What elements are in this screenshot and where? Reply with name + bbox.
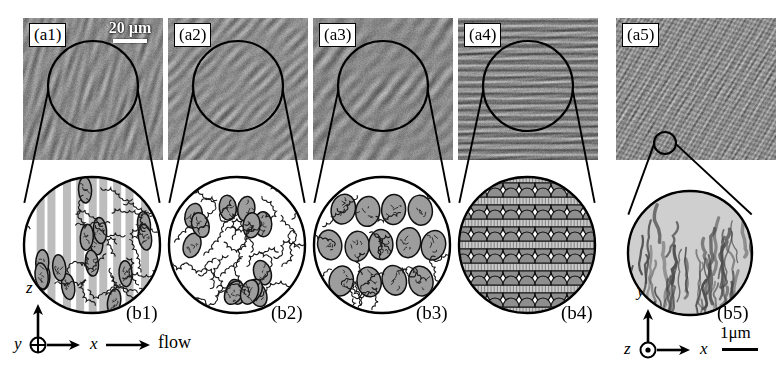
axis-label-z-left: z (26, 279, 33, 296)
panel-label-a5: (a5) (622, 23, 659, 47)
axis-label-z-right: z (624, 340, 631, 357)
panel-label-a2: (a2) (174, 23, 211, 47)
scale-bar-line (113, 39, 147, 43)
scale-bar-20um: 20 µm (98, 20, 162, 43)
scale-bar-1um-label: 1μm (720, 324, 751, 341)
axis-label-x-right: x (700, 340, 708, 357)
panel-label-a1: (a1) (29, 23, 66, 47)
panel-label-b1: (b1) (126, 303, 158, 322)
panel-label-b5: (b5) (717, 303, 749, 322)
axis-label-x-left: x (90, 335, 98, 352)
flow-direction-label: flow (158, 333, 191, 351)
panel-label-a3: (a3) (319, 23, 356, 47)
axis-label-y-right: y (637, 282, 645, 299)
scale-bar-label: 20 µm (98, 20, 162, 36)
panel-label-b4: (b4) (561, 303, 593, 322)
figure-canvas: (a1) (a2) (a3) (a4) (a5) 20 µm (b1) (b2)… (0, 0, 784, 385)
panel-label-a4: (a4) (464, 23, 501, 47)
panel-label-b2: (b2) (271, 303, 303, 322)
scale-bar-1um-line (722, 348, 758, 351)
axis-label-y-left: y (14, 335, 22, 352)
panel-label-b3: (b3) (416, 303, 448, 322)
